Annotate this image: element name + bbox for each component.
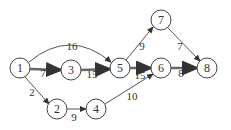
svg-text:7: 7 bbox=[158, 13, 164, 27]
weight-4-6: 10 bbox=[127, 90, 139, 102]
edge-7-8 bbox=[168, 28, 200, 61]
svg-text:3: 3 bbox=[68, 63, 74, 77]
svg-text:8: 8 bbox=[204, 61, 210, 75]
node-8: 8 bbox=[197, 58, 217, 78]
weight-5-7: 9 bbox=[139, 40, 145, 52]
network-diagram: 16 7 15 2 9 10 9 15 7 8 1 3 5 7 6 8 2 4 bbox=[0, 0, 231, 130]
weight-7-8: 7 bbox=[177, 40, 183, 52]
weight-1-5: 16 bbox=[67, 40, 79, 52]
svg-text:1: 1 bbox=[17, 61, 23, 75]
weight-3-5: 15 bbox=[87, 68, 99, 80]
weight-1-2: 2 bbox=[29, 86, 35, 98]
node-6: 6 bbox=[151, 58, 171, 78]
node-7: 7 bbox=[151, 10, 171, 30]
svg-text:6: 6 bbox=[158, 61, 164, 75]
node-1: 1 bbox=[10, 58, 30, 78]
weight-2-4: 9 bbox=[71, 111, 77, 123]
weight-1-3: 7 bbox=[40, 67, 46, 79]
svg-text:2: 2 bbox=[54, 102, 60, 116]
node-3: 3 bbox=[61, 60, 81, 80]
weight-6-8: 8 bbox=[178, 67, 184, 79]
node-5: 5 bbox=[110, 58, 130, 78]
weight-5-6: 15 bbox=[135, 69, 147, 81]
svg-text:5: 5 bbox=[117, 61, 123, 75]
node-4: 4 bbox=[86, 99, 106, 119]
node-2: 2 bbox=[47, 99, 67, 119]
svg-text:4: 4 bbox=[93, 102, 99, 116]
